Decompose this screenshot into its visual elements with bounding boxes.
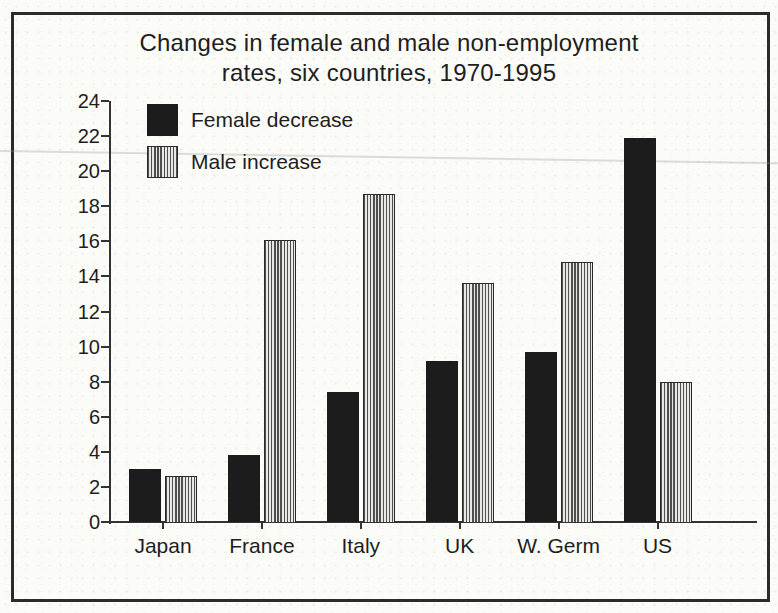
legend-item-male-increase: Male increase (147, 146, 322, 178)
category-label-uk: UK (411, 534, 509, 558)
x-axis-tick (657, 523, 659, 529)
y-tick-label: 20 (55, 160, 100, 182)
y-tick-label: 6 (55, 406, 100, 428)
y-tick-label: 2 (55, 476, 100, 498)
category-label-italy: Italy (312, 534, 410, 558)
category-label-france: France (213, 534, 311, 558)
y-axis-tick (101, 346, 109, 348)
x-axis-tick (558, 523, 560, 529)
y-axis-tick (101, 311, 109, 313)
category-label-japan: Japan (114, 534, 212, 558)
bar-male-increase-japan (165, 476, 197, 522)
y-tick-label: 8 (55, 371, 100, 393)
y-axis-line (109, 101, 111, 524)
category-label-us: US (609, 534, 707, 558)
legend-item-female-decrease: Female decrease (147, 104, 353, 136)
y-tick-label: 4 (55, 441, 100, 463)
y-axis-tick (101, 100, 109, 102)
y-axis-tick (101, 381, 109, 383)
bar-female-decrease-us (624, 138, 656, 522)
solid-black-swatch-icon (147, 104, 178, 136)
x-axis-tick (162, 523, 164, 529)
x-axis-tick (459, 523, 461, 529)
x-axis-tick (261, 523, 263, 529)
striped-swatch-icon (147, 146, 178, 178)
bar-male-increase-w-germ (561, 262, 593, 522)
y-tick-label: 12 (55, 301, 100, 323)
y-tick-label: 22 (55, 125, 100, 147)
bar-male-increase-us (660, 382, 692, 522)
y-axis-tick (101, 135, 109, 137)
y-tick-label: 0 (55, 511, 100, 533)
bar-female-decrease-uk (426, 361, 458, 522)
y-axis-tick (101, 521, 109, 523)
legend-label-female-decrease: Female decrease (191, 108, 353, 132)
chart-title-line1: Changes in female and male non-employmen… (0, 28, 778, 58)
bar-male-increase-uk (462, 283, 494, 522)
chart-title: Changes in female and male non-employmen… (0, 28, 778, 88)
bar-female-decrease-france (228, 455, 260, 522)
y-tick-label: 24 (55, 90, 100, 112)
y-axis-tick (101, 486, 109, 488)
y-axis-tick (101, 205, 109, 207)
y-tick-label: 10 (55, 336, 100, 358)
y-tick-label: 14 (55, 265, 100, 287)
y-axis-tick (101, 170, 109, 172)
y-axis-tick (101, 240, 109, 242)
chart-title-line2: rates, six countries, 1970-1995 (0, 58, 778, 88)
y-axis-tick (101, 416, 109, 418)
legend-label-male-increase: Male increase (191, 150, 322, 174)
bar-male-increase-france (264, 240, 296, 522)
y-axis-tick (101, 275, 109, 277)
y-axis-tick (101, 451, 109, 453)
y-tick-label: 18 (55, 195, 100, 217)
bar-female-decrease-japan (129, 469, 161, 522)
bar-male-increase-italy (363, 194, 395, 522)
bar-female-decrease-italy (327, 392, 359, 522)
category-label-w-germ: W. Germ (510, 534, 608, 558)
bar-female-decrease-w-germ (525, 352, 557, 522)
y-tick-label: 16 (55, 230, 100, 252)
x-axis-tick (360, 523, 362, 529)
